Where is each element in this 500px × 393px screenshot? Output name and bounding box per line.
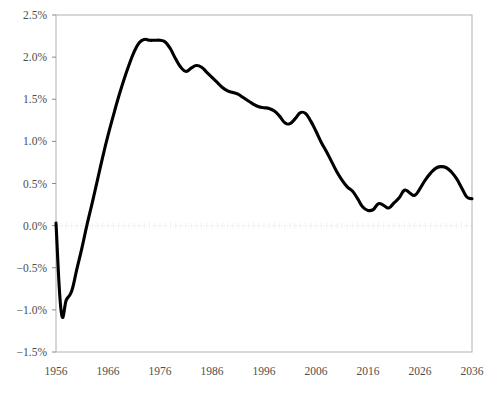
x-axis-tick-label: 1976 (149, 365, 172, 377)
data-series-line (56, 39, 472, 317)
x-axis-tick-label: 1996 (253, 365, 276, 377)
y-axis-tick-label: 2.5% (23, 9, 47, 21)
y-axis-tick-label: −1.5% (17, 346, 48, 358)
chart-canvas: 2.5%2.0%1.5%1.0%0.5%0.0%−0.5%−1.0%−1.5% … (0, 0, 500, 393)
x-axis-tick-label: 1986 (201, 365, 224, 377)
x-axis-tick-label: 2036 (461, 365, 484, 377)
x-axis-tick-label: 1956 (45, 365, 68, 377)
x-axis-tick-label: 2026 (409, 365, 432, 377)
data-series-group (56, 39, 472, 317)
y-axis-ticks (52, 15, 56, 352)
y-axis-tick-label: 1.5% (23, 93, 47, 105)
line-chart: 2.5%2.0%1.5%1.0%0.5%0.0%−0.5%−1.0%−1.5% … (0, 0, 500, 393)
y-axis-tick-label: 2.0% (23, 51, 47, 63)
y-axis-tick-label: 0.0% (23, 220, 47, 232)
y-axis-tick-label: −0.5% (17, 262, 48, 274)
x-axis-tick-label: 1966 (97, 365, 120, 377)
x-axis-tick-labels: 195619661976198619962006201620262036 (45, 365, 484, 377)
y-axis-tick-labels: 2.5%2.0%1.5%1.0%0.5%0.0%−0.5%−1.0%−1.5% (17, 9, 48, 358)
plot-area-frame (56, 15, 472, 352)
x-axis-tick-label: 2016 (357, 365, 380, 377)
y-axis-tick-label: 0.5% (23, 178, 47, 190)
y-axis-tick-label: 1.0% (23, 135, 47, 147)
x-axis-tick-label: 2006 (305, 365, 328, 377)
y-axis-tick-label: −1.0% (17, 304, 48, 316)
